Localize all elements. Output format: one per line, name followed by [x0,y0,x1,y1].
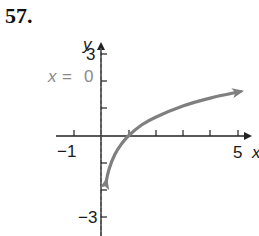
x-tick-label-5: 5 [233,143,242,162]
y-tick-label-3: 3 [86,45,95,64]
x-tick-label-neg1: −1 [57,142,76,161]
plot-area: y 3 −3 −1 5 x x = 0 [0,0,259,236]
x-ticks [74,130,238,136]
svg-text:=: = [62,67,72,86]
graph-figure: 57. [0,0,259,236]
x-axis-label: x [251,143,259,162]
y-tick-label-neg3: −3 [78,208,97,227]
svg-text:0: 0 [84,67,93,86]
asymptote-label: x = 0 [47,67,93,86]
svg-text:x: x [47,67,57,86]
